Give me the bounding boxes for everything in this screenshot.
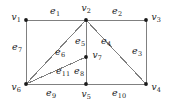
edge-e7-label: e7 (12, 42, 22, 52)
label-subscript: 7 (98, 54, 102, 62)
graph-vertex-v3 (144, 18, 148, 22)
graph-canvas (0, 0, 169, 102)
graph-vertex-v2 (84, 18, 88, 22)
label-base: e (112, 5, 118, 16)
edge-e2-label: e2 (112, 6, 122, 16)
label-base: e (50, 5, 56, 16)
edge-e6-label: e6 (55, 47, 65, 57)
label-subscript: 5 (87, 93, 91, 101)
graph-vertex-v4 (144, 82, 148, 86)
edge-e5-label: e5 (75, 36, 85, 46)
label-subscript: 2 (87, 7, 91, 15)
label-subscript: 8 (80, 70, 84, 78)
label-base: e (75, 35, 81, 46)
label-base: e (112, 87, 118, 98)
label-base: e (132, 45, 138, 56)
label-subscript: 7 (18, 46, 22, 54)
vertex-v2-label: v2 (81, 4, 90, 13)
label-base: e (46, 87, 52, 98)
label-subscript: 6 (61, 51, 65, 59)
edge-e9-label: e9 (46, 88, 56, 98)
label-subscript: 10 (118, 92, 126, 100)
label-subscript: 3 (138, 50, 142, 58)
edge-e11-label: e11 (56, 66, 70, 76)
graph-vertex-v7 (84, 55, 88, 59)
vertex-v6-label: v6 (11, 83, 20, 92)
graph-vertex-v1 (24, 18, 28, 22)
vertex-v4-label: v4 (151, 83, 160, 92)
label-subscript: 11 (62, 70, 70, 78)
label-subscript: 4 (157, 86, 161, 94)
vertex-v5-label: v5 (81, 90, 90, 99)
label-subscript: 3 (157, 16, 161, 24)
label-base: e (55, 46, 61, 57)
vertex-v7-label: v7 (92, 51, 101, 60)
label-base: e (12, 41, 18, 52)
edge-e4-label: e4 (101, 36, 111, 46)
edge-e8-label: e8 (74, 66, 84, 76)
label-subscript: 1 (17, 16, 21, 24)
edge-e10-label: e10 (112, 88, 126, 98)
label-subscript: 9 (52, 92, 56, 100)
label-subscript: 5 (81, 40, 85, 48)
label-subscript: 6 (17, 86, 21, 94)
label-base: e (74, 65, 80, 76)
label-subscript: 4 (107, 40, 111, 48)
edge-e3-label: e3 (132, 46, 142, 56)
label-base: e (101, 35, 107, 46)
edge-layer (26, 20, 146, 84)
vertex-v3-label: v3 (151, 13, 160, 22)
graph-figure: e1e2e3e4e5e6e7e8e9e10e11v1v2v3v4v5v6v7 (0, 0, 169, 102)
edge-e1-label: e1 (50, 6, 60, 16)
label-subscript: 2 (118, 10, 122, 18)
label-base: e (56, 65, 62, 76)
graph-vertex-v6 (24, 82, 28, 86)
vertex-v1-label: v1 (11, 13, 20, 22)
graph-vertex-v5 (84, 82, 88, 86)
label-subscript: 1 (56, 10, 60, 18)
